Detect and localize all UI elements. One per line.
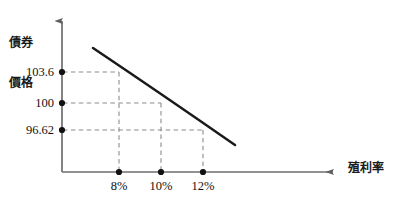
y-axis-title-line1: 債券 xyxy=(9,37,33,50)
axis-lines xyxy=(62,21,333,172)
y-tick-label-103-6: 103.6 xyxy=(0,65,54,80)
y-tick-label-96-62: 96.62 xyxy=(0,123,54,138)
bond-price-yield-chart: 債券 價格 殖利率 103.6 100 96.62 8% 10% 12% xyxy=(0,0,396,202)
x-tick-label-10pct: 10% xyxy=(138,179,184,194)
x-marker-10pct xyxy=(158,169,164,175)
dashed-guide-lines xyxy=(63,72,203,171)
x-tick-label-12pct: 12% xyxy=(180,179,226,194)
y-marker-96-62 xyxy=(59,127,65,133)
x-marker-8pct xyxy=(116,169,122,175)
x-marker-12pct xyxy=(200,169,206,175)
x-axis-title: 殖利率 xyxy=(348,162,384,175)
chart-canvas xyxy=(0,0,396,202)
y-marker-103-6 xyxy=(59,69,65,75)
y-marker-100 xyxy=(59,100,65,106)
y-tick-label-100: 100 xyxy=(0,96,54,111)
x-tick-label-8pct: 8% xyxy=(96,179,142,194)
